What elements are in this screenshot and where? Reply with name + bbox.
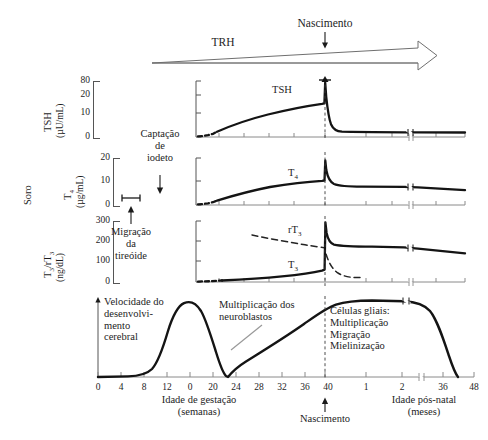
xtick-post-48: 48 bbox=[469, 382, 479, 393]
tsh-peak-marker bbox=[322, 76, 329, 82]
figure-vector-canvas bbox=[0, 0, 488, 440]
figure-root: Nascimento TRH Soro TSH (µU/mL) 80 20 10… bbox=[0, 0, 488, 440]
xtick-post-36: 36 bbox=[438, 382, 448, 393]
birth-arrow-bottom bbox=[322, 398, 328, 413]
t3-curve-early-dashed bbox=[198, 281, 222, 282]
axis-break-brain bbox=[418, 373, 424, 381]
t3-axis-unit: (ng/dL) bbox=[55, 253, 66, 282]
tsh-ytick-10: 10 bbox=[81, 107, 91, 118]
xtick-gest-16: 0 bbox=[188, 382, 193, 393]
rt3-series-label: rT3 bbox=[288, 224, 301, 239]
xtick-gest-24: 24 bbox=[231, 382, 241, 393]
xtick-gest-40: 40 bbox=[323, 382, 333, 393]
t4-curve bbox=[217, 161, 465, 201]
xtick-gest-4: 4 bbox=[119, 382, 124, 393]
thyroid-migration-annotation: Migraçãodatireóide bbox=[111, 226, 151, 261]
tsh-curve-early-dashed bbox=[198, 132, 217, 137]
tsh-series-label: TSH bbox=[272, 84, 292, 96]
tsh-ytick-20: 20 bbox=[81, 89, 91, 100]
t4-ytick-20: 20 bbox=[101, 152, 111, 163]
t4-series-label: T4 bbox=[288, 167, 298, 182]
brain-growth-annotation: Velocidade dodesenvolvi-mentocerebral bbox=[104, 296, 164, 343]
serum-group-label: Soro bbox=[22, 185, 34, 205]
axis-break-t3 bbox=[408, 278, 413, 286]
panel-t4 bbox=[196, 152, 465, 209]
t3-ytick-0: 0 bbox=[105, 276, 110, 287]
xtick-gest-20: 20 bbox=[208, 382, 218, 393]
t3-ytick-100: 100 bbox=[96, 255, 110, 266]
xtick-gest-12: 12 bbox=[162, 382, 172, 393]
t3-ytick-200: 200 bbox=[96, 235, 110, 246]
neuroblast-leader-line bbox=[231, 325, 262, 350]
t3-curve bbox=[222, 223, 465, 281]
curve-break-t4 bbox=[407, 184, 413, 191]
tsh-ytick-0: 0 bbox=[85, 131, 90, 142]
trh-label: TRH bbox=[212, 36, 235, 49]
tsh-label-bracket bbox=[93, 81, 100, 139]
xtick-gest-0: 0 bbox=[96, 382, 101, 393]
thyroid-migration-marker bbox=[122, 195, 140, 225]
panel-tsh bbox=[196, 76, 465, 141]
xtick-gest-28: 28 bbox=[254, 382, 264, 393]
t4-curve-early-dashed bbox=[198, 201, 217, 205]
t4-ytick-0: 0 bbox=[105, 199, 110, 210]
birth-axis-label: Nascimento bbox=[300, 413, 350, 425]
panel-t3-rt3 bbox=[196, 216, 465, 286]
tsh-curve bbox=[217, 83, 465, 133]
birth-title-label: Nascimento bbox=[298, 17, 353, 30]
xtick-post-2: 2 bbox=[400, 382, 405, 393]
tsh-axis-unit: (µU/mL) bbox=[55, 104, 66, 139]
t3-series-label: T3 bbox=[288, 259, 298, 274]
birth-arrow-top bbox=[322, 32, 328, 49]
brain-axis-arrowhead bbox=[95, 297, 100, 303]
t3-ytick-300: 300 bbox=[96, 215, 110, 226]
trh-wedge bbox=[152, 41, 437, 70]
rt3-curve bbox=[252, 235, 360, 278]
tsh-axis-title: TSH bbox=[42, 112, 54, 132]
iodide-uptake-annotation: Captaçãodeiodeto bbox=[140, 128, 179, 163]
curve-break-t3 bbox=[407, 245, 413, 252]
curve-break-brain bbox=[402, 298, 410, 305]
t4-label-bracket bbox=[113, 158, 120, 207]
iodide-uptake-arrow bbox=[157, 175, 163, 194]
t4-axis-unit: (µg/mL) bbox=[75, 176, 86, 208]
axis-break-t4 bbox=[408, 201, 413, 209]
t4-ytick-10: 10 bbox=[101, 175, 111, 186]
xtick-gest-8: 8 bbox=[142, 382, 147, 393]
tsh-ytick-80: 80 bbox=[81, 75, 91, 86]
glial-annotation: Células gliais:MultiplicaçãoMigraçãoMiel… bbox=[330, 305, 390, 352]
xtick-gest-36: 36 bbox=[300, 382, 310, 393]
xtick-gest-32: 32 bbox=[277, 382, 287, 393]
gestation-axis-title: Idade de gestação(semanas) bbox=[162, 394, 237, 418]
postnatal-axis-title: Idade pós-natal(meses) bbox=[392, 394, 456, 418]
xtick-post-1: 1 bbox=[364, 382, 369, 393]
neuroblast-annotation: Multiplicação dosneuroblastos bbox=[219, 299, 295, 323]
